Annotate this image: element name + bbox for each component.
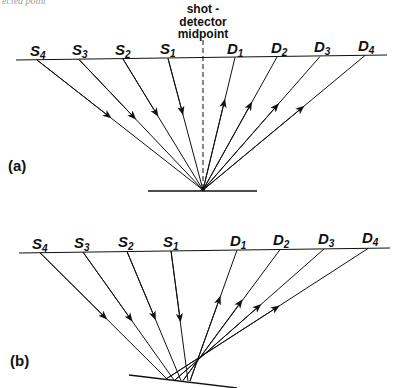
svg-text:D1: D1	[230, 232, 247, 251]
panel-label-a: (a)	[8, 157, 26, 174]
svg-text:D4: D4	[362, 229, 379, 248]
source-rays-a	[37, 59, 203, 191]
svg-text:S4: S4	[32, 235, 48, 254]
dipping-reflector	[129, 375, 237, 388]
svg-text:S3: S3	[72, 41, 88, 60]
panel-a: S4 S3 S2 S1 D1 D2 D3 D4	[8, 37, 387, 191]
svg-text:S1: S1	[160, 40, 176, 59]
detector-labels-b: D1 D2 D3 D4	[230, 229, 379, 251]
cmp-ray-diagram: ected point shot - detector midpoint S4 …	[0, 0, 398, 388]
detector-rays-b	[166, 249, 368, 382]
svg-text:S3: S3	[74, 234, 90, 253]
detector-rays-a	[203, 56, 365, 191]
svg-text:S4: S4	[30, 42, 46, 61]
caption-fragment: ected point	[2, 0, 46, 6]
svg-text:midpoint: midpoint	[178, 27, 229, 41]
svg-text:D2: D2	[271, 39, 288, 58]
svg-text:S2: S2	[115, 41, 131, 60]
midpoint-label: shot - detector midpoint	[178, 2, 229, 41]
svg-text:D3: D3	[314, 38, 331, 57]
panel-label-b: (b)	[10, 352, 29, 369]
svg-text:D2: D2	[273, 231, 290, 250]
svg-text:D3: D3	[318, 230, 335, 249]
svg-text:D4: D4	[358, 37, 375, 56]
svg-text:S1: S1	[163, 233, 179, 252]
svg-text:S2: S2	[118, 233, 134, 252]
svg-text:D1: D1	[227, 40, 244, 59]
source-rays-b	[40, 251, 188, 381]
svg-text:shot -: shot -	[187, 2, 220, 16]
panel-b: S4 S3 S2 S1 D1 D2 D3 D4	[10, 229, 390, 388]
